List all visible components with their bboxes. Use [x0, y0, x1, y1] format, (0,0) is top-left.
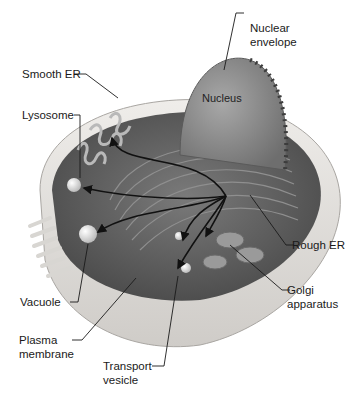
label-nuclear-envelope-line1: Nuclear [250, 22, 290, 35]
label-golgi-line1: Golgi [287, 284, 314, 297]
label-nucleus: Nucleus [202, 92, 242, 105]
label-smooth-er: Smooth ER [22, 68, 81, 81]
label-lysosome: Lysosome [22, 109, 74, 122]
cell-diagram: Smooth ER Lysosome Vacuole Plasma membra… [0, 0, 357, 402]
lysosome-shape [67, 178, 81, 192]
label-plasma-membrane-line2: membrane [19, 348, 74, 361]
label-transport-vesicle-line2: vesicle [103, 374, 138, 387]
vacuole-shape [79, 225, 97, 243]
label-rough-er: Rough ER [292, 239, 345, 252]
label-golgi-line2: apparatus [287, 298, 338, 311]
label-plasma-membrane-line1: Plasma [19, 334, 57, 347]
label-transport-vesicle-line1: Transport [103, 360, 152, 373]
label-vacuole: Vacuole [20, 296, 61, 309]
transport-vesicle-shape [181, 263, 191, 273]
label-nuclear-envelope-line2: envelope [250, 36, 297, 49]
